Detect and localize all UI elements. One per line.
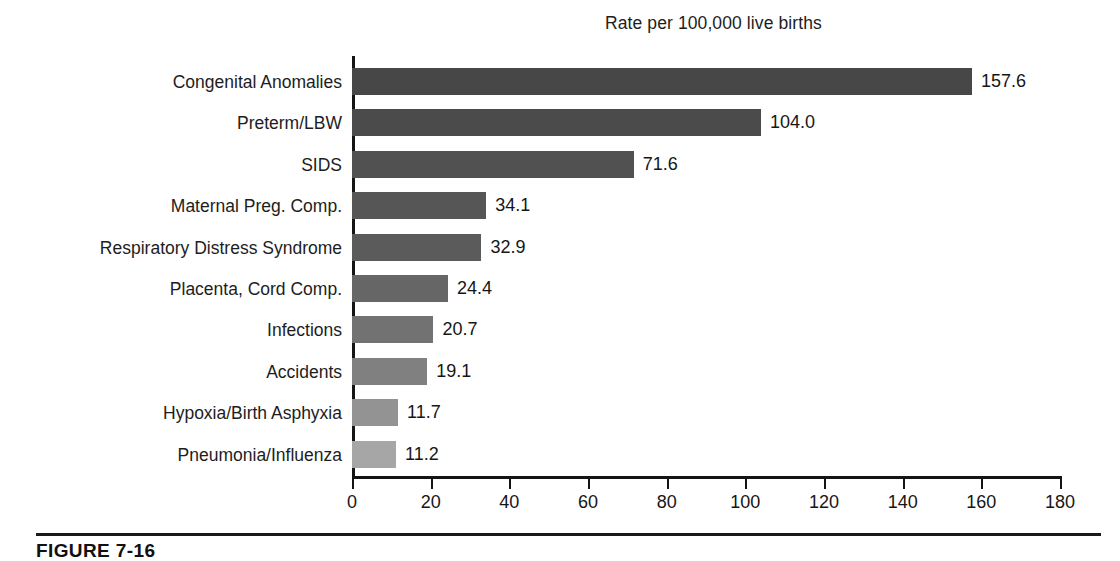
bar-row: 20.7 xyxy=(352,310,1060,351)
bar xyxy=(352,275,448,302)
category-label: Accidents xyxy=(10,352,342,393)
x-tick-mark xyxy=(667,479,669,489)
category-label: Respiratory Distress Syndrome xyxy=(10,228,342,269)
bar xyxy=(352,68,972,95)
category-label: Maternal Preg. Comp. xyxy=(10,186,342,227)
x-tick-label: 180 xyxy=(1045,492,1075,513)
chart-title: Rate per 100,000 live births xyxy=(605,13,822,34)
x-tick-label: 20 xyxy=(421,492,441,513)
x-tick-label: 100 xyxy=(730,492,760,513)
bar-row: 34.1 xyxy=(352,186,1060,227)
bar-value-label: 32.9 xyxy=(481,234,525,261)
bar xyxy=(352,399,398,426)
bar-row: 24.4 xyxy=(352,269,1060,310)
bar xyxy=(352,192,486,219)
bar xyxy=(352,151,634,178)
bar xyxy=(352,441,396,468)
category-label: Hypoxia/Birth Asphyxia xyxy=(10,393,342,434)
bar-value-label: 24.4 xyxy=(448,275,492,302)
x-tick-label: 0 xyxy=(347,492,357,513)
bar xyxy=(352,358,427,385)
bar-row: 11.7 xyxy=(352,393,1060,434)
bar-row: 19.1 xyxy=(352,352,1060,393)
x-tick-label: 60 xyxy=(578,492,598,513)
x-tick-label: 140 xyxy=(888,492,918,513)
x-tick-label: 80 xyxy=(657,492,677,513)
x-tick-mark xyxy=(352,479,354,489)
x-axis-ticks xyxy=(352,479,1062,491)
bar-row: 157.6 xyxy=(352,62,1060,103)
category-label: Infections xyxy=(10,310,342,351)
x-tick-mark xyxy=(1060,479,1062,489)
bar-value-label: 71.6 xyxy=(634,151,678,178)
bar-value-label: 20.7 xyxy=(433,316,477,343)
bar xyxy=(352,109,761,136)
bar-row: 104.0 xyxy=(352,103,1060,144)
x-tick-mark xyxy=(431,479,433,489)
bar-value-label: 11.7 xyxy=(398,399,441,426)
category-label: Congenital Anomalies xyxy=(10,62,342,103)
category-axis-labels: Congenital AnomaliesPreterm/LBWSIDSMater… xyxy=(10,62,342,476)
x-tick-label: 120 xyxy=(809,492,839,513)
bar-value-label: 19.1 xyxy=(427,358,471,385)
figure-number: FIGURE 7-16 xyxy=(36,540,156,561)
plot-area: 157.6104.071.634.132.924.420.719.111.711… xyxy=(352,62,1060,476)
bar-value-label: 34.1 xyxy=(486,192,530,219)
x-tick-mark xyxy=(824,479,826,489)
x-tick-mark xyxy=(745,479,747,489)
bar xyxy=(352,234,481,261)
bar-value-label: 11.2 xyxy=(396,441,439,468)
bar xyxy=(352,316,433,343)
x-tick-label: 40 xyxy=(499,492,519,513)
bar-value-label: 104.0 xyxy=(761,109,815,136)
caption-divider xyxy=(36,533,1101,536)
bar-row: 71.6 xyxy=(352,145,1060,186)
bar-row: 32.9 xyxy=(352,228,1060,269)
x-tick-mark xyxy=(981,479,983,489)
category-label: SIDS xyxy=(10,145,342,186)
category-label: Placenta, Cord Comp. xyxy=(10,269,342,310)
x-tick-label: 160 xyxy=(966,492,996,513)
bar-row: 11.2 xyxy=(352,435,1060,476)
x-tick-mark xyxy=(903,479,905,489)
x-tick-mark xyxy=(509,479,511,489)
x-tick-mark xyxy=(588,479,590,489)
bar-value-label: 157.6 xyxy=(972,68,1026,95)
category-label: Pneumonia/Influenza xyxy=(10,435,342,476)
x-axis-tick-labels: 020406080100120140160180 xyxy=(352,492,1062,518)
category-label: Preterm/LBW xyxy=(10,103,342,144)
